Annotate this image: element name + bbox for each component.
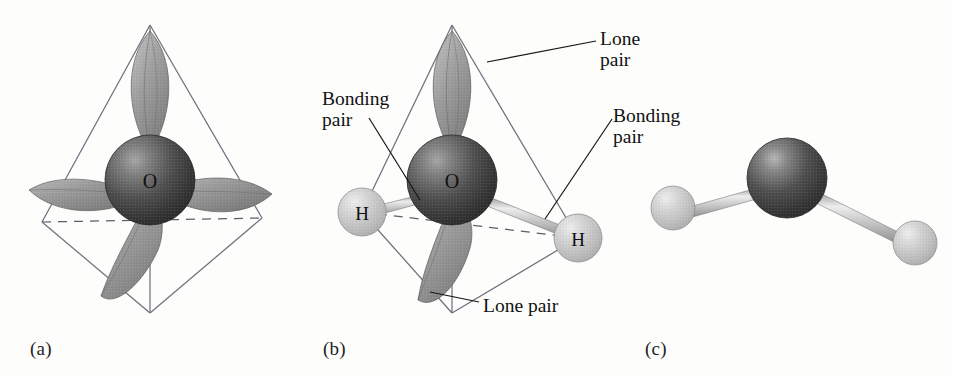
callout-lone-pair-top: Lone pair [600,28,640,70]
panel-c-hydrogen-right-atom [893,221,937,265]
panel-c-oxygen-atom [747,138,827,218]
panel-a-oxygen-label: O [143,170,157,192]
panel-a-oxygen-atom: O [105,135,195,225]
figure-root: O [0,0,953,375]
panel-b-hydrogen-left-atom: H [338,188,386,236]
panel-b-lone-pair-lobe-top [433,31,471,152]
panel-caption-b: (b) [323,338,346,360]
callout-bonding-pair-left: Bonding pair [322,88,389,130]
panel-b-hydrogen-right-atom: H [554,214,602,262]
panel-b-oxygen-atom: O [407,135,497,225]
panel-b-hydrogen-left-label: H [355,203,369,224]
panel-c-bond-left [686,188,760,218]
panel-caption-a: (a) [30,338,52,360]
leader-lone-pair-top [487,41,596,62]
panel-caption-c: (c) [645,338,667,360]
panel-c-group [651,138,937,265]
panel-b-oxygen-label: O [445,170,459,192]
callout-lone-pair-bottom: Lone pair [483,295,558,316]
molecule-figure-svg: O [0,0,953,375]
panel-c-bond-right [814,192,902,244]
panel-b-group: O H H [338,25,612,313]
panel-b-hydrogen-right-label: H [571,229,585,250]
leader-bonding-pair-right [545,119,612,219]
callout-bonding-pair-right: Bonding pair [613,105,680,147]
panel-a-group: O [29,25,272,313]
panel-c-hydrogen-left-atom [651,186,695,230]
